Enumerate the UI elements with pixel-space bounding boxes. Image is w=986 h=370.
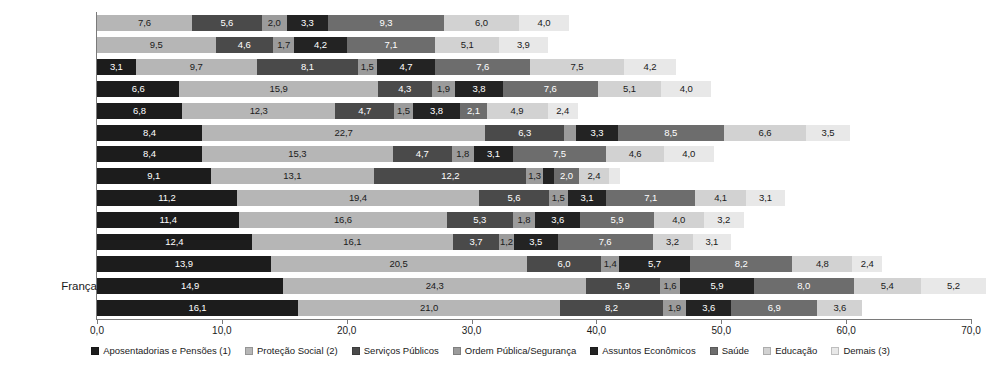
bar-row: Islândia3,19,78,11,54,77,67,54,2 (97, 56, 676, 78)
bar-segment: 5,1 (598, 81, 662, 97)
bar-segment: 3,6 (535, 212, 580, 228)
legend-item[interactable]: Proteção Social (2) (245, 346, 338, 356)
bar-segment: 7,5 (530, 59, 624, 75)
bar-segment: 9,1 (97, 168, 211, 184)
bar-row: Espanha11,416,65,31,83,65,94,03,2 (97, 209, 744, 231)
legend-label: Assuntos Econômicos (602, 346, 695, 356)
legend-swatch-icon (763, 347, 771, 355)
segment-value-label: 12,4 (165, 237, 183, 247)
bar-segment: 8,4 (97, 125, 202, 141)
bar-row: Itália16,121,08,21,93,66,93,6 (97, 297, 862, 319)
bar-segment: 4,6 (606, 146, 663, 162)
bar-segment: 3,8 (413, 103, 460, 119)
bar-segment: 4,7 (335, 103, 394, 119)
segment-value-label: 4,6 (238, 40, 251, 50)
legend-item[interactable]: Demais (3) (831, 346, 889, 356)
x-axis-tick-label: 20,0 (337, 325, 356, 336)
bar-segment: 3,1 (474, 146, 513, 162)
bar-segment: 12,4 (97, 234, 252, 250)
legend-swatch-icon (453, 347, 461, 355)
bar-segment: 1,4 (601, 256, 618, 272)
segment-value-label: 3,2 (666, 237, 679, 247)
segment-value-label: 2,0 (268, 18, 281, 28)
bar-segment: 16,1 (252, 234, 453, 250)
segment-value-label: 3,3 (591, 128, 604, 138)
bar-row: Dinamarca8,422,76,31,03,38,56,63,5 (97, 122, 850, 144)
segment-value-label: 5,3 (473, 215, 486, 225)
segment-value-label: 2,0 (560, 172, 573, 182)
segment-value-label: 8,1 (301, 62, 314, 72)
segment-value-label: 3,1 (487, 150, 500, 160)
segment-value-label: 16,1 (343, 237, 361, 247)
segment-value-label: 20,5 (389, 259, 407, 269)
legend-item[interactable]: Ordem Pública/Segurança (453, 346, 576, 356)
bar-segment: 24,3 (283, 278, 586, 294)
segment-value-label: 6,0 (475, 18, 488, 28)
legend-item[interactable]: Assuntos Econômicos (590, 346, 695, 356)
bar-row: França14,924,35,91,65,98,05,45,2 (97, 275, 986, 297)
segment-value-label: 21,0 (420, 303, 438, 313)
bar-segment: 3,6 (686, 300, 731, 316)
bar-segment: 2,4 (579, 168, 609, 184)
segment-value-label: 6,0 (557, 259, 570, 269)
bar-segment: 2,0 (554, 168, 579, 184)
bar-segment: 7,6 (97, 15, 192, 31)
bar-segment: 5,3 (447, 212, 513, 228)
bar-segment: 22,7 (202, 125, 485, 141)
segment-value-label: 8,4 (143, 150, 156, 160)
segment-value-label: 2,4 (861, 259, 874, 269)
bar-segment: 4,1 (695, 190, 746, 206)
category-label: França (0, 275, 97, 297)
bar-segment: 6,9 (731, 300, 817, 316)
bar-segment: 8,2 (560, 300, 662, 316)
segment-value-label: 3,5 (822, 128, 835, 138)
legend-item[interactable]: Educação (763, 346, 817, 356)
segment-value-label: 7,1 (385, 40, 398, 50)
bar-segment: 19,4 (237, 190, 479, 206)
bar-segment: 5,9 (580, 212, 654, 228)
bar-segment: 3,1 (746, 190, 785, 206)
segment-value-label: 3,6 (833, 303, 846, 313)
segment-value-label: 7,5 (553, 150, 566, 160)
segment-value-label: 5,6 (220, 18, 233, 28)
bar-segment: 7,6 (435, 59, 530, 75)
segment-value-label: 1,8 (518, 215, 531, 225)
legend-label: Ordem Pública/Segurança (465, 346, 576, 356)
bar-segment: 2,4 (548, 103, 578, 119)
x-axis-tick-mark (846, 320, 847, 324)
legend-item[interactable]: Serviços Públicos (352, 346, 439, 356)
bar-row: Alemanha11,219,45,61,53,17,14,13,1 (97, 187, 785, 209)
bar-segment: 4,0 (661, 81, 711, 97)
bar-segment: 4,2 (294, 37, 346, 53)
bar-segment: 5,1 (435, 37, 499, 53)
segment-value-label: 6,8 (133, 106, 146, 116)
segment-value-label: 6,6 (758, 128, 771, 138)
bar-segment: 4,0 (664, 146, 714, 162)
bar-segment: 3,7 (453, 234, 499, 250)
legend-item[interactable]: Aposentadorias e Pensões (1) (91, 346, 231, 356)
segment-value-label: 12,3 (250, 106, 268, 116)
bar-segment: 15,3 (202, 146, 393, 162)
x-axis-line (96, 319, 972, 320)
segment-value-label: 5,1 (461, 40, 474, 50)
bar-segment: 4,2 (624, 59, 676, 75)
bar-segment: 7,6 (503, 81, 598, 97)
segment-value-label: 1,9 (668, 303, 681, 313)
bar-segment: 21,0 (298, 300, 560, 316)
x-axis-tick-mark (222, 320, 223, 324)
legend-item[interactable]: Saúde (710, 346, 749, 356)
segment-value-label: 3,1 (759, 193, 772, 203)
bar-segment: 9,5 (97, 37, 216, 53)
segment-value-label: 4,0 (672, 215, 685, 225)
segment-value-label: 1,9 (437, 84, 450, 94)
segment-value-label: 5,1 (623, 84, 636, 94)
bar-segment: 4,7 (393, 146, 452, 162)
bar-segment: 11,4 (97, 212, 239, 228)
x-axis-tick-label: 60,0 (836, 325, 855, 336)
bar-segment: 6,0 (527, 256, 602, 272)
segment-value-label: 5,9 (617, 281, 630, 291)
segment-value-label: 8,2 (735, 259, 748, 269)
bar-row: Japão12,416,13,71,23,57,63,23,1 (97, 231, 731, 253)
segment-value-label: 1,8 (456, 150, 469, 160)
bar-segment: 15,9 (179, 81, 378, 97)
